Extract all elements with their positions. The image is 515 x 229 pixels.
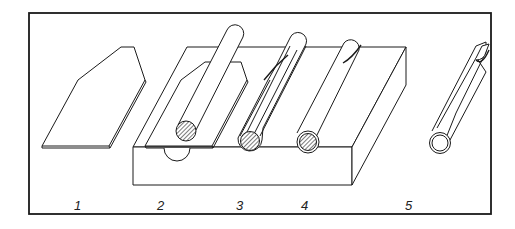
- label-4: 4: [301, 198, 308, 213]
- item-5-hollow-tube: [430, 42, 490, 154]
- label-2: 2: [156, 198, 165, 213]
- diagram-figure: 1 2 3 4 5: [0, 0, 515, 229]
- label-5: 5: [405, 198, 413, 213]
- item-1-flat-plate: [42, 47, 146, 148]
- label-3: 3: [236, 198, 244, 213]
- label-1: 1: [74, 198, 81, 213]
